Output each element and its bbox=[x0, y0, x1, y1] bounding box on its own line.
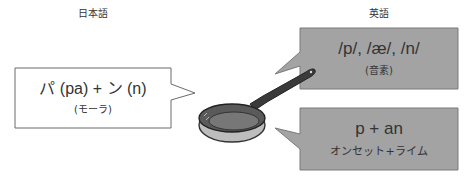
phoneme-box: /p/, /æ/, /n/ (音素) bbox=[300, 28, 458, 89]
phoneme-caption: (音素) bbox=[365, 62, 393, 77]
japanese-box: パ (pa) + ン (n) (モーラ) bbox=[15, 68, 171, 128]
english-label: 英語 bbox=[369, 5, 389, 20]
mora-text: パ (pa) + ン (n) bbox=[39, 80, 146, 98]
phoneme-text: /p/, /æ/, /n/ bbox=[338, 40, 419, 59]
frying-pan-icon bbox=[199, 69, 315, 142]
onset-rime-box: p + an オンセット+ライム bbox=[300, 108, 458, 170]
onset-rime-caption: オンセット+ライム bbox=[330, 142, 427, 158]
mora-caption: (モーラ) bbox=[74, 101, 112, 116]
onset-rime-text: p + an bbox=[355, 120, 403, 139]
japanese-label: 日本語 bbox=[78, 5, 108, 20]
